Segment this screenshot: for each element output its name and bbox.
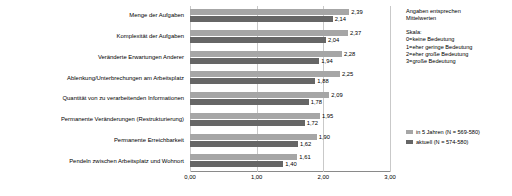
bar-value-label: 1,95 [322,113,333,119]
bar [190,92,329,98]
legend-swatch [406,130,413,134]
category-label: Pendeln zwischen Arbeitsplatz und Wohnor… [69,159,184,165]
bar-value-label: 1,40 [285,161,296,167]
category-label: Menge der Aufgaben [129,13,184,19]
bar-group: 1,901,62 [190,134,390,152]
bar [190,16,333,22]
scale-item: 1=eher geringe Bedeutung [406,44,510,51]
bar-value-label: 1,61 [299,154,310,160]
bar-value-label: 1,72 [307,120,318,126]
gridline [390,6,391,172]
bar-value-label: 2,04 [328,37,339,43]
bar [190,154,297,160]
bar [190,9,349,15]
bar-chart: Menge der AufgabenKomplexität der Aufgab… [0,0,512,196]
bar-group: 1,951,72 [190,113,390,131]
bar [190,141,298,147]
legend-swatch [406,140,413,144]
chart-legend: in 5 Jahren (N = 569-580)aktuell (N = 57… [406,128,510,148]
x-tick-label: 1,00 [251,174,262,180]
bar-group: 2,281,94 [190,51,390,69]
category-label: Quantität von zu verarbeitenden Informat… [63,96,185,102]
bar [190,161,283,167]
bar [190,37,326,43]
bar-value-label: 1,78 [311,99,322,105]
scale-title: Skala: [406,29,510,36]
bar [190,120,305,126]
scale-item: 3=große Bedeutung [406,58,510,65]
bar [190,30,348,36]
legend-item: aktuell (N = 574-580) [406,138,510,146]
bar-group: 2,251,88 [190,71,390,89]
x-tick-label: 0,00 [184,174,195,180]
bar-value-label: 1,88 [317,78,328,84]
legend-label: aktuell (N = 574-580) [416,138,468,146]
bar [190,78,315,84]
category-axis-labels: Menge der AufgabenKomplexität der Aufgab… [0,6,187,172]
side-note-line: Angaben entsprechen [406,8,510,15]
x-tick-label: 2,00 [318,174,329,180]
legend-label: in 5 Jahren (N = 569-580) [416,128,480,136]
bar-value-label: 2,09 [331,92,342,98]
bar-group: 2,372,04 [190,30,390,48]
bar [190,58,319,64]
bar-value-label: 2,39 [351,9,362,15]
bar-value-label: 2,37 [350,30,361,36]
bar-value-label: 2,28 [344,51,355,57]
bar [190,134,317,140]
side-note-panel: Angaben entsprechenMittelwertenSkala:0=k… [406,8,510,66]
bar [190,51,342,57]
bar-value-label: 1,90 [319,134,330,140]
bar-group: 2,091,78 [190,92,390,110]
category-label: Ablenkung/Unterbrechungen am Arbeitsplat… [67,76,184,82]
scale-item: 0=keine Bedeutung [406,36,510,43]
bar [190,113,320,119]
category-label: Permanente Veränderungen (Restrukturieru… [61,117,184,123]
bar-value-label: 1,94 [321,58,332,64]
scale-item: 2=eher große Bedeutung [406,51,510,58]
legend-item: in 5 Jahren (N = 569-580) [406,128,510,136]
category-label: Komplexität der Aufgaben [117,34,184,40]
category-label: Permanente Erreichbarkeit [114,138,184,144]
bar-group: 2,392,14 [190,9,390,27]
bar-value-label: 2,25 [342,71,353,77]
bar-group: 1,611,40 [190,154,390,172]
bar [190,99,309,105]
bar-value-label: 1,62 [300,141,311,147]
x-axis-ticks: 0,001,002,003,00 [190,174,390,186]
side-note-line: Mittelwerten [406,15,510,22]
category-label: Veränderte Erwartungen Anderer [98,55,184,61]
plot-area: 2,392,142,372,042,281,942,251,882,091,78… [190,6,390,172]
bar-value-label: 2,14 [335,16,346,22]
x-tick-label: 3,00 [384,174,395,180]
bar [190,71,340,77]
